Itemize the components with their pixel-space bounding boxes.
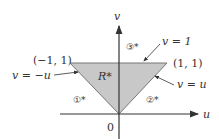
equation-label-v-eq-1: v = 1 <box>162 35 191 48</box>
vertex-label-left: (−1, 1) <box>33 54 72 67</box>
boundary-1-marker: ①* <box>73 95 86 105</box>
region-diagram: v u 0 (−1, 1) (1, 1) R* ①* ②* ③* v = −u … <box>0 0 219 139</box>
arrow-to-v-eq-u <box>155 76 174 85</box>
origin-label: 0 <box>107 121 114 134</box>
region-label: R* <box>97 70 112 83</box>
arrow-to-v-neg-u <box>54 72 78 75</box>
v-axis-label: v <box>114 10 121 23</box>
equation-label-v-neg-u: v = −u <box>12 69 51 82</box>
u-axis-label: u <box>203 108 210 121</box>
vertex-label-right: (1, 1) <box>173 57 203 70</box>
boundary-2-marker: ②* <box>146 95 159 105</box>
boundary-3-marker: ③* <box>126 42 139 52</box>
arrow-to-v-eq-1 <box>144 44 160 61</box>
equation-label-v-eq-u: v = u <box>177 78 207 91</box>
